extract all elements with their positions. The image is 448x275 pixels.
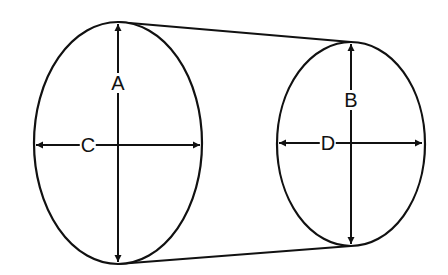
frustum-diagram	[0, 0, 448, 275]
label-a: A	[110, 73, 125, 93]
label-d: D	[320, 133, 336, 153]
label-b: B	[343, 90, 358, 110]
label-c: C	[80, 135, 96, 155]
